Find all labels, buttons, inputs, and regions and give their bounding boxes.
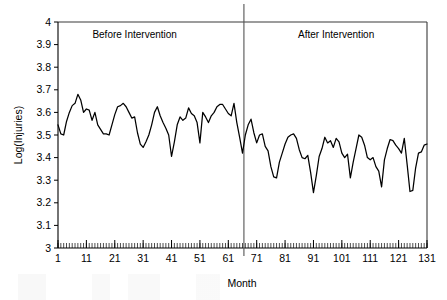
x-tick-label: 11 bbox=[81, 252, 92, 264]
x-tick-label: 81 bbox=[279, 252, 291, 264]
x-tick-label: 111 bbox=[362, 252, 378, 264]
figure-container: 33.13.23.33.43.53.63.73.83.94 1112131415… bbox=[0, 0, 447, 300]
y-tick-label: 3.7 bbox=[36, 83, 51, 95]
before-intervention-label: Before Intervention bbox=[92, 29, 177, 40]
y-tick-label: 3.8 bbox=[36, 61, 51, 73]
x-tick-label: 91 bbox=[308, 252, 320, 264]
y-tick-label: 3.1 bbox=[36, 219, 51, 231]
x-tick-label: 51 bbox=[194, 252, 206, 264]
y-tick-label: 3.3 bbox=[36, 174, 51, 186]
x-tick-label: 121 bbox=[390, 252, 408, 264]
x-tick-label: 101 bbox=[333, 252, 351, 264]
x-tick-label: 31 bbox=[137, 252, 149, 264]
x-tick-label: 71 bbox=[251, 252, 263, 264]
y-tick-label: 3.9 bbox=[36, 38, 51, 50]
y-tick-label: 3 bbox=[45, 242, 51, 254]
x-tick-label: 1 bbox=[55, 252, 61, 264]
y-tick-label: 3.2 bbox=[36, 196, 51, 208]
y-tick-label: 3.6 bbox=[36, 106, 51, 118]
x-tick-label: 61 bbox=[222, 252, 234, 264]
x-tick-label: 131 bbox=[418, 252, 436, 264]
y-tick-label: 3.4 bbox=[36, 151, 51, 163]
line-chart: 33.13.23.33.43.53.63.73.83.94 1112131415… bbox=[0, 0, 447, 300]
x-tick-label: 41 bbox=[166, 252, 178, 264]
y-tick-label: 3.5 bbox=[36, 129, 51, 141]
x-axis-title: Month bbox=[227, 277, 256, 289]
after-intervention-label: After Intervention bbox=[298, 29, 374, 40]
x-tick-label: 21 bbox=[109, 252, 121, 264]
y-tick-label: 4 bbox=[45, 16, 51, 28]
y-axis-title: Log(Injuries) bbox=[12, 106, 24, 164]
